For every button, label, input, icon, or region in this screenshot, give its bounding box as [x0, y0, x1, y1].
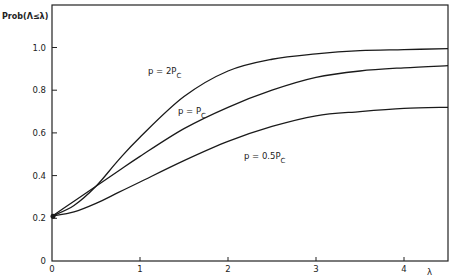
- y-tick-label: 0.6: [32, 128, 46, 138]
- chart: Prob(Λ≤λ) 00.20.40.60.81.0 01234 λ p = 2…: [0, 0, 451, 280]
- x-tick-label: 1: [137, 264, 142, 274]
- origin-point: [51, 214, 56, 219]
- x-tick-label: 3: [313, 264, 318, 274]
- curve-labels: p = 2PCp = PCp = 0.5PC: [148, 66, 286, 165]
- x-axis-label: λ: [427, 267, 432, 277]
- y-tick-label: 0.4: [32, 171, 46, 181]
- curve-label: p = 0.5PC: [244, 151, 286, 165]
- curve-label: p = PC: [178, 106, 206, 120]
- x-tick-label: 4: [401, 264, 406, 274]
- x-tick-label: 2: [225, 264, 230, 274]
- curve-2: [52, 107, 448, 216]
- curve-label: p = 2PC: [148, 66, 181, 80]
- y-tick-label: 0: [41, 256, 46, 266]
- y-axis-ticks: 00.20.40.60.81.0: [32, 43, 57, 267]
- curve-1: [52, 66, 448, 217]
- x-tick-label: 0: [49, 264, 54, 274]
- curves: [51, 49, 449, 219]
- y-axis-label: Prob(Λ≤λ): [2, 12, 48, 21]
- y-tick-label: 0.8: [32, 85, 46, 95]
- x-axis-ticks: 01234: [49, 257, 406, 274]
- y-tick-label: 1.0: [32, 43, 46, 53]
- curve-0: [52, 49, 448, 217]
- y-tick-label: 0.2: [32, 213, 46, 223]
